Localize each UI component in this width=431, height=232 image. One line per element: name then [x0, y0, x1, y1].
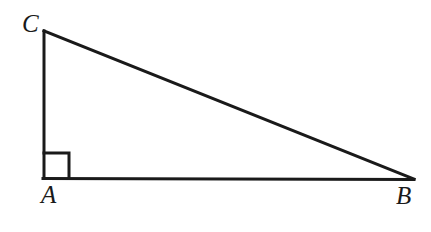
vertex-label-b: B	[396, 183, 411, 208]
segment-cb	[44, 31, 414, 179]
right-angle-marker-icon	[44, 153, 69, 178]
vertex-label-c: C	[22, 11, 39, 36]
segment-ab	[43, 179, 414, 180]
triangle-diagram-svg	[0, 0, 431, 232]
right-triangle-figure: C A B	[0, 0, 431, 232]
vertex-label-a: A	[41, 182, 56, 207]
